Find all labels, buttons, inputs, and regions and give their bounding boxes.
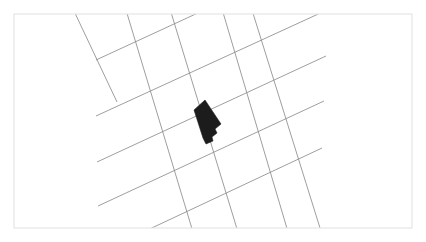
- map-canvas: [0, 0, 426, 242]
- map-figure: Building footprint on rotated cadastral …: [0, 0, 426, 242]
